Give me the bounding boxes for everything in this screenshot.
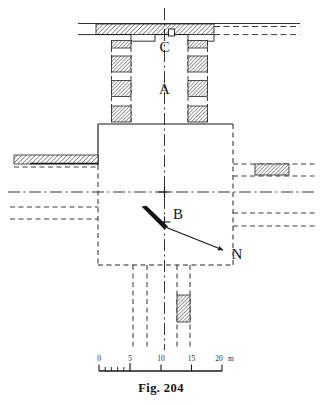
pier-left-4 [112, 106, 132, 122]
scale-label-10: 10 [157, 354, 165, 363]
label-point-a: A [159, 81, 170, 97]
scale-unit-label: m [228, 354, 234, 363]
scale-label-15: 15 [188, 354, 196, 363]
label-point-b: B [173, 206, 183, 222]
pier-left-1 [112, 41, 132, 49]
scale-label-0: 0 [97, 354, 101, 363]
pier-right-3 [188, 81, 208, 97]
scale-label-5: 5 [128, 354, 132, 363]
top-wall-central-niche [169, 29, 175, 36]
south-hatched-block [177, 295, 190, 322]
figure-caption: Fig. 204 [138, 381, 184, 395]
pier-right-4 [188, 106, 208, 122]
site-plan-drawing: 0 5 10 15 20 m C A B N Fig. 204 [0, 0, 321, 405]
label-point-c: C [159, 39, 169, 55]
west-wall-hatched-band [14, 155, 98, 164]
pier-right-1 [188, 41, 208, 49]
pier-left-3 [112, 81, 132, 97]
figure-plan-container: 0 5 10 15 20 m C A B N Fig. 204 [0, 0, 321, 405]
top-wall-hatched-band [96, 24, 214, 35]
east-wall-hatched-block [255, 164, 289, 175]
page-background [0, 0, 321, 405]
label-north: N [232, 246, 243, 262]
pier-left-2 [112, 56, 132, 72]
scale-label-20: 20 [215, 354, 223, 363]
pier-right-2 [188, 56, 208, 72]
